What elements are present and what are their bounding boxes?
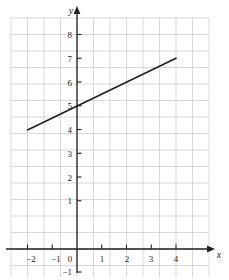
graph-svg: −2 −1 0 1 2 3 4 −1 1 2 3 4 5 6 7 8 y x bbox=[0, 0, 229, 280]
y-tick-label-3: 3 bbox=[68, 149, 73, 159]
x-tick-label-3: 3 bbox=[149, 254, 154, 264]
y-tick-label-7: 7 bbox=[68, 54, 73, 64]
x-tick-label-2: 2 bbox=[125, 254, 130, 264]
coordinate-plane-graph: −2 −1 0 1 2 3 4 −1 1 2 3 4 5 6 7 8 y x bbox=[0, 0, 229, 280]
x-tick-label-1: 1 bbox=[100, 254, 105, 264]
x-axis-label: x bbox=[216, 249, 222, 260]
chart-background bbox=[0, 0, 229, 280]
y-tick-label-6: 6 bbox=[68, 78, 73, 88]
y-tick-label-8: 8 bbox=[68, 30, 73, 40]
x-tick-label--2: −2 bbox=[26, 254, 36, 264]
y-tick-label-1: 1 bbox=[68, 196, 73, 206]
y-tick-label-2: 2 bbox=[68, 173, 73, 183]
x-tick-label-0: 0 bbox=[68, 254, 73, 264]
y-tick-label-4: 4 bbox=[68, 125, 73, 135]
x-tick-label--1: −1 bbox=[51, 254, 61, 264]
y-tick-label--1: −1 bbox=[62, 267, 72, 277]
y-axis-label: y bbox=[68, 5, 74, 16]
x-tick-label-4: 4 bbox=[174, 254, 179, 264]
